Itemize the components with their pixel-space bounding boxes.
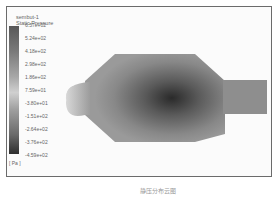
unit-label: [ Pa ]	[9, 160, 21, 166]
tick-label: -2.64e+02	[25, 126, 48, 132]
tick-label: 7.59e+01	[25, 87, 46, 93]
colorbar-ticks: 6.57e+02 5.24e+02 4.18e+02 2.98e+02 1.86…	[25, 25, 65, 155]
tick-label: -1.51e+02	[25, 113, 48, 119]
pressure-contour	[60, 40, 272, 168]
colorbar	[9, 26, 19, 154]
tick-label: -3.76e+02	[25, 139, 48, 145]
figure-caption: 静压分布云图	[140, 186, 176, 195]
tick-label: 5.24e+02	[25, 35, 46, 41]
tick-label: -3.80e+01	[25, 100, 48, 106]
tick-label: 2.98e+02	[25, 61, 46, 67]
tick-label: -4.59e+02	[25, 152, 48, 158]
tick-label: 1.86e+02	[25, 74, 46, 80]
tick-label: 6.57e+02	[25, 22, 46, 28]
tick-label: 4.18e+02	[25, 48, 46, 54]
